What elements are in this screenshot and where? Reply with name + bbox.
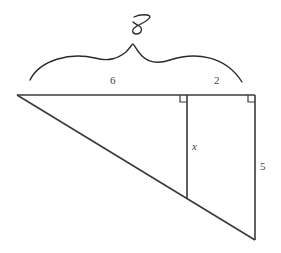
label-top-left-segment: 6 xyxy=(110,74,116,86)
right-angle-marker-outer xyxy=(248,95,255,102)
right-angle-marker-inner xyxy=(180,95,187,102)
label-right-side: 5 xyxy=(260,160,266,172)
handwritten-total-8 xyxy=(133,15,150,34)
hypotenuse xyxy=(17,95,255,240)
curly-brace xyxy=(30,44,242,82)
label-inner-vertical: x xyxy=(191,140,197,152)
geometry-diagram: 6 2 x 5 xyxy=(0,0,281,253)
label-top-right-segment: 2 xyxy=(214,74,220,86)
